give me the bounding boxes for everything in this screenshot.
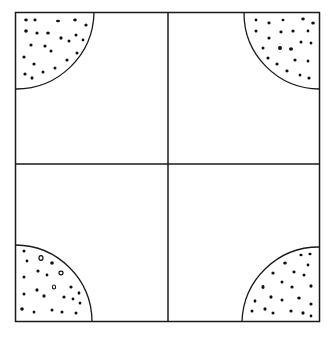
stipple-dots bbox=[251, 253, 313, 318]
stipple-dots bbox=[22, 19, 87, 80]
corner-top-left bbox=[16, 13, 95, 90]
corner-bottom-right bbox=[242, 247, 320, 322]
stipple-dots bbox=[255, 18, 315, 80]
corner-top-right bbox=[244, 13, 320, 90]
quadrant-diagram bbox=[0, 0, 333, 338]
corner-bottom-left bbox=[16, 245, 93, 322]
stipple-dots bbox=[20, 250, 81, 315]
